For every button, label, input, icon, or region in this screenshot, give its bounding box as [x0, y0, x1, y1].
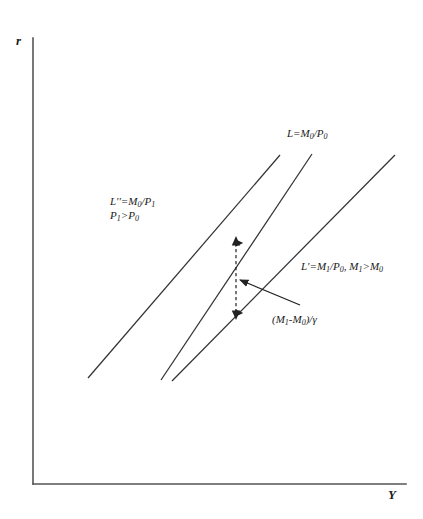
x-axis-label: Y: [388, 487, 396, 504]
curve-label-L-double-prime-line1: L''=M0/P1: [110, 194, 155, 208]
lm-curve-diagram: r Y L=M0/P0 L''=M0/P1 P1>P0 L'=M1/P0, M1…: [0, 0, 423, 519]
shift-magnitude-label: (M1-M0)/γ: [272, 312, 317, 326]
annotation-pointer-arrow: [240, 280, 300, 305]
y-axis-label: r: [16, 33, 21, 50]
curve-label-L-prime: L'=M1/P0, M1>M0: [301, 259, 383, 273]
curve-label-L-double-prime: L''=M0/P1 P1>P0: [110, 194, 155, 222]
dashed-arrowhead-up: [232, 236, 240, 246]
curve-label-price-inequality: P1>P0: [110, 208, 155, 222]
curve-label-L: L=M0/P0: [287, 126, 328, 140]
